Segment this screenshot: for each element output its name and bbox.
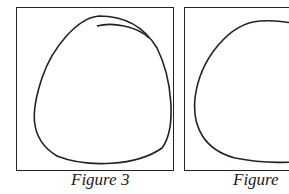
figure-4-panel bbox=[184, 7, 289, 171]
figure-3-caption: Figure 3 bbox=[71, 170, 129, 190]
figure-4-curve bbox=[185, 8, 289, 172]
figure-3-curve bbox=[17, 8, 175, 172]
figure-4-caption: Figure 4 bbox=[233, 170, 289, 194]
figure-3-panel bbox=[16, 7, 174, 171]
